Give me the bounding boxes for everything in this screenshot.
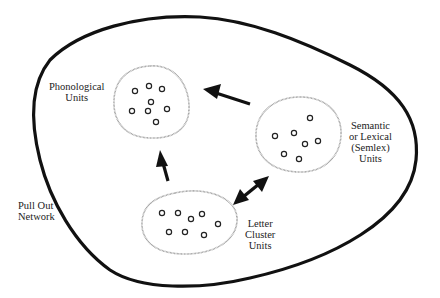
unit-node [296,156,301,161]
arrow-letter-to-phonological [156,150,168,181]
label-line: Semantic [349,120,392,131]
unit-node [291,130,296,135]
unit-node [215,221,220,226]
arrow-letter-semlex-bidirectional [233,176,269,205]
unit-node [182,229,187,234]
unit-node [129,108,134,113]
letter-cluster [142,191,237,254]
unit-node [132,88,137,93]
phonological-cluster-outline [114,66,189,138]
unit-node [307,115,312,120]
unit-node [148,99,153,104]
unit-node [146,83,151,88]
semlex-cluster [256,97,341,172]
unit-node [199,211,204,216]
unit-node [175,210,180,215]
semlex-units-label: Semantic or Lexical (Semlex) Units [349,120,392,164]
arrow-semlex-to-phonological [203,84,250,104]
unit-node [159,210,164,215]
pull-out-network-label: Pull Out Network [18,200,55,222]
label-line: Units [49,92,104,103]
label-line: Units [245,240,275,251]
unit-node [164,106,169,111]
unit-node [153,119,158,124]
label-line: Letter [245,218,275,229]
letter-cluster-units-label: Letter Cluster Units [245,218,275,251]
phonological-unit-nodes [129,83,169,124]
semlex-cluster-outline [256,97,341,172]
label-line: Cluster [245,229,275,240]
phonological-cluster [114,66,189,138]
letter-cluster-outline [142,191,237,254]
label-line: Network [18,211,55,222]
unit-node [145,108,150,113]
unit-node [281,151,286,156]
label-line: or Lexical [349,131,392,142]
unit-node [159,86,164,91]
unit-node [272,133,277,138]
label-line: Phonological [49,81,104,92]
unit-node [201,232,206,237]
unit-node [166,229,171,234]
label-line: Pull Out [18,200,55,211]
label-line: Units [349,153,392,164]
label-line: (Semlex) [349,142,392,153]
semlex-unit-nodes [272,115,320,161]
letter-unit-nodes [159,210,220,237]
unit-node [188,216,193,221]
unit-node [315,138,320,143]
unit-node [302,141,307,146]
phonological-units-label: Phonological Units [49,81,104,103]
